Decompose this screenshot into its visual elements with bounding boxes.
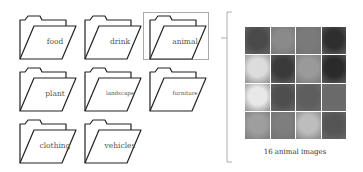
animal-image-dog [245, 84, 270, 111]
animal-image-bird [271, 112, 296, 139]
animal-image-panda [322, 55, 347, 82]
animal-image-cats [245, 55, 270, 82]
animal-image-hamster [271, 84, 296, 111]
animal-image-rabbit [245, 112, 270, 139]
animal-image-tiger [296, 84, 321, 111]
animal-image-grid [245, 27, 346, 139]
animal-image-cat [296, 112, 321, 139]
animal-image-penguin [296, 55, 321, 82]
animal-image-lion [322, 27, 347, 54]
animal-image-horses [271, 27, 296, 54]
animal-image-bird [322, 84, 347, 111]
animal-image-giraffe [322, 112, 347, 139]
animal-image-reptile [296, 27, 321, 54]
animal-image-owl [245, 27, 270, 54]
image-grid-caption: 16 animal images [250, 148, 340, 156]
animal-image-horse [271, 55, 296, 82]
